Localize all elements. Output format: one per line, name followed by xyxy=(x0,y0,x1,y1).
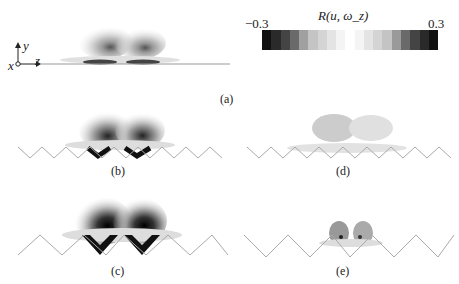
colorbar-step xyxy=(382,30,391,50)
colorbar-step xyxy=(308,30,317,50)
colorbar-step xyxy=(392,30,401,50)
colorbar-step xyxy=(318,30,327,50)
panel-a-contours xyxy=(0,0,230,110)
colorbar-step xyxy=(401,30,410,50)
panel-label-e: (e) xyxy=(336,264,349,279)
colorbar-step xyxy=(262,30,271,50)
colorbar xyxy=(262,30,438,50)
colorbar-step xyxy=(355,30,364,50)
colorbar-step xyxy=(364,30,373,50)
colorbar-step xyxy=(327,30,336,50)
colorbar-step xyxy=(290,30,299,50)
panel-label-c: (c) xyxy=(111,264,124,279)
colorbar-step xyxy=(373,30,382,50)
colorbar-step xyxy=(345,30,354,50)
colorbar-step xyxy=(410,30,419,50)
colorbar-step xyxy=(420,30,429,50)
panel-label-d: (d) xyxy=(336,164,350,179)
colorbar-step xyxy=(429,30,438,50)
colorbar-title: R(u, ω_z) xyxy=(318,8,368,24)
colorbar-step xyxy=(271,30,280,50)
panel-label-b: (b) xyxy=(111,164,125,179)
colorbar-step xyxy=(281,30,290,50)
colorbar-step xyxy=(299,30,308,50)
colorbar-step xyxy=(336,30,345,50)
